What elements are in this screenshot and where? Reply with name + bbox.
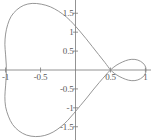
chart-svg	[0, 0, 151, 140]
x-tick-label: -0.5	[34, 73, 47, 82]
chart-container: -1-0.50.511.510.5-0.5-1-1.5	[0, 0, 151, 140]
y-tick-label: -1.5	[60, 122, 73, 131]
x-tick-label: 0.5	[105, 73, 116, 82]
y-tick-label: 1	[69, 28, 73, 37]
axes-group	[0, 0, 151, 140]
y-tick-label: 1.5	[63, 9, 74, 18]
y-tick-label: -1	[66, 103, 73, 112]
y-tick-label: -0.5	[60, 84, 73, 93]
x-tick-label: 1	[143, 73, 147, 82]
x-tick-label: -1	[2, 73, 9, 82]
y-tick-label: 0.5	[63, 47, 74, 56]
